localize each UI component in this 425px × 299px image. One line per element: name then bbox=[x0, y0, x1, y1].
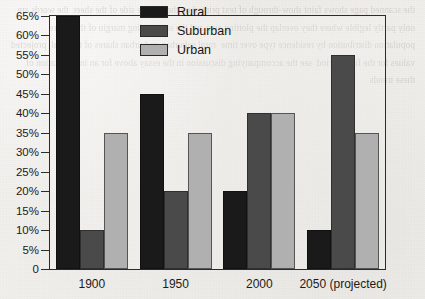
y-axis-tick bbox=[41, 133, 50, 134]
chart-legend: Rural Suburban Urban bbox=[140, 3, 231, 60]
legend-swatch-rural bbox=[140, 6, 168, 18]
legend-swatch-suburban bbox=[140, 25, 168, 37]
y-axis-tick bbox=[41, 113, 50, 114]
x-axis-label: 1950 bbox=[162, 277, 189, 291]
y-axis-label: 0 bbox=[33, 263, 39, 275]
bar-urban-2000 bbox=[271, 113, 295, 269]
y-axis-tick bbox=[41, 16, 50, 17]
y-axis-tick bbox=[41, 94, 50, 95]
y-axis-label: 10% bbox=[16, 224, 39, 236]
bar-rural-1950 bbox=[140, 94, 164, 269]
y-axis-tick bbox=[41, 250, 50, 251]
y-axis-tick bbox=[41, 74, 50, 75]
bar-urban-1900 bbox=[104, 133, 128, 269]
legend-label-suburban: Suburban bbox=[177, 24, 231, 38]
legend-item: Urban bbox=[140, 41, 231, 59]
y-axis-label: 35% bbox=[16, 127, 39, 139]
y-axis-label: 30% bbox=[16, 146, 39, 158]
legend-swatch-urban bbox=[140, 44, 168, 56]
y-axis-tick bbox=[41, 152, 50, 153]
y-axis-label: 20% bbox=[16, 185, 39, 197]
legend-item: Suburban bbox=[140, 22, 231, 40]
y-axis-label: 45% bbox=[16, 88, 39, 100]
y-axis-tick bbox=[41, 269, 50, 270]
y-axis-tick bbox=[41, 191, 50, 192]
legend-label-urban: Urban bbox=[177, 43, 211, 57]
y-axis-label: 60% bbox=[16, 29, 39, 41]
x-axis-label: 2000 bbox=[246, 277, 273, 291]
y-axis-tick bbox=[41, 211, 50, 212]
y-axis-label: 65% bbox=[16, 10, 39, 22]
bar-rural-1900 bbox=[56, 16, 80, 269]
bar-suburban-2000 bbox=[247, 113, 271, 269]
y-axis-label: 55% bbox=[16, 49, 39, 61]
bar-urban-1950 bbox=[188, 133, 212, 269]
bar-urban-2050 bbox=[355, 133, 379, 269]
legend-label-rural: Rural bbox=[177, 5, 207, 19]
bar-rural-2050 bbox=[307, 230, 331, 269]
bar-rural-2000 bbox=[223, 191, 247, 269]
x-axis-label: 1900 bbox=[79, 277, 106, 291]
y-axis-tick bbox=[41, 172, 50, 173]
bar-suburban-1900 bbox=[80, 230, 104, 269]
y-axis-tick bbox=[41, 230, 50, 231]
y-axis-label: 15% bbox=[16, 205, 39, 217]
legend-item: Rural bbox=[140, 3, 231, 21]
y-axis-label: 25% bbox=[16, 166, 39, 178]
y-axis-label: 5% bbox=[22, 244, 39, 256]
y-axis-label: 40% bbox=[16, 107, 39, 119]
y-axis-tick bbox=[41, 35, 50, 36]
bar-suburban-1950 bbox=[164, 191, 188, 269]
y-axis-tick bbox=[41, 55, 50, 56]
y-axis-label: 50% bbox=[16, 68, 39, 80]
bar-suburban-2050 bbox=[331, 55, 355, 269]
x-axis-label: 2050 (projected) bbox=[299, 277, 386, 291]
bar-chart: 65%60%55%50%45%40%35%30%25%20%15%10%5%01… bbox=[0, 0, 425, 299]
